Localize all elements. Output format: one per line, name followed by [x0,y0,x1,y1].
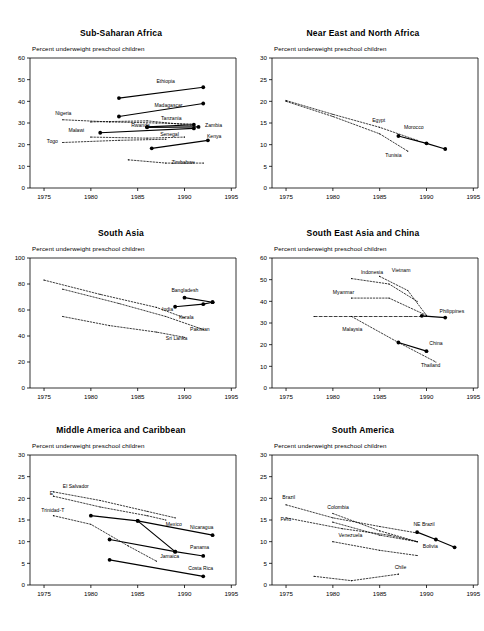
svg-text:15: 15 [260,516,267,523]
svg-text:Venezuela: Venezuela [338,532,362,538]
svg-text:Morocco: Morocco [404,124,424,130]
svg-text:10: 10 [18,163,25,170]
svg-text:30: 30 [260,54,267,61]
panel-title: Near East and North Africa [242,28,484,38]
svg-text:1980: 1980 [84,393,98,400]
plot-area-near-east-north-africa: 05101520253019751980198519901995EgyptMor… [260,54,481,200]
svg-text:15: 15 [18,516,25,523]
svg-text:1990: 1990 [178,193,192,200]
svg-text:Chile: Chile [395,564,407,570]
svg-text:1980: 1980 [326,193,340,200]
svg-text:1980: 1980 [326,393,340,400]
svg-text:Zimbabwe: Zimbabwe [171,159,195,165]
svg-text:E: E [50,490,54,496]
svg-text:5: 5 [264,163,268,170]
svg-text:Costa Rica: Costa Rica [188,565,213,571]
svg-text:1995: 1995 [466,393,480,400]
svg-text:El Salvador: El Salvador [63,483,89,489]
panel-title: Sub-Saharan Africa [0,28,242,38]
svg-text:1975: 1975 [279,393,293,400]
svg-text:Jamaica: Jamaica [160,553,179,559]
panel-middle-america-caribbean: Middle America and Caribbean Percent und… [0,425,242,620]
svg-text:Vietnam: Vietnam [392,267,411,273]
svg-text:Tunisia: Tunisia [385,152,401,158]
svg-text:0: 0 [264,581,268,588]
chart-south-east-asia-china: Percent underweight preschool children 0… [242,238,484,418]
axis-note: Percent underweight preschool children [274,442,387,449]
svg-text:20: 20 [260,98,267,105]
svg-text:China: China [429,340,442,346]
svg-text:20: 20 [260,341,267,348]
svg-text:Sri Lanka: Sri Lanka [166,335,188,341]
svg-text:1995: 1995 [224,590,238,597]
svg-text:NE Brazil: NE Brazil [413,521,434,527]
svg-text:60: 60 [18,54,25,61]
svg-text:60: 60 [18,306,25,313]
axis-note: Percent underweight preschool children [32,45,145,52]
axis-note: Percent underweight preschool children [32,442,145,449]
svg-text:20: 20 [260,495,267,502]
svg-text:10: 10 [260,141,267,148]
svg-text:40: 40 [260,298,267,305]
svg-text:Myanmar: Myanmar [333,289,355,295]
svg-text:1980: 1980 [326,590,340,597]
svg-text:1990: 1990 [178,590,192,597]
svg-text:1990: 1990 [420,590,434,597]
svg-text:30: 30 [18,119,25,126]
svg-text:100: 100 [15,254,26,261]
svg-text:1985: 1985 [373,393,387,400]
svg-text:Nicaragua: Nicaragua [190,524,213,530]
svg-text:Pakistan: Pakistan [190,326,210,332]
svg-text:Rwanda: Rwanda [131,122,150,128]
svg-text:50: 50 [260,276,267,283]
svg-text:30: 30 [260,451,267,458]
svg-text:30: 30 [260,319,267,326]
svg-text:1975: 1975 [37,193,51,200]
svg-text:20: 20 [18,358,25,365]
svg-text:Bangladesh: Bangladesh [171,287,198,293]
svg-text:0: 0 [264,384,268,391]
svg-text:Tanzania: Tanzania [161,115,182,121]
chart-sub-saharan-africa: Percent underweight preschool children 0… [0,38,242,218]
svg-text:Thailand: Thailand [421,362,441,368]
svg-text:1980: 1980 [84,193,98,200]
svg-text:Malaysia: Malaysia [342,326,362,332]
svg-text:1995: 1995 [466,590,480,597]
svg-text:0: 0 [264,184,268,191]
svg-text:Togo: Togo [47,138,58,144]
svg-text:1985: 1985 [373,590,387,597]
svg-text:Madagascar: Madagascar [155,102,183,108]
panel-south-america: South America Percent underweight presch… [242,425,484,620]
svg-text:Indonesia: Indonesia [361,269,383,275]
svg-text:Brazil: Brazil [282,494,295,500]
svg-text:40: 40 [18,332,25,339]
svg-text:Panama: Panama [190,544,209,550]
svg-text:Zambia: Zambia [205,122,222,128]
svg-text:Colombia: Colombia [327,504,349,510]
svg-text:0: 0 [22,581,26,588]
panel-title: South Asia [0,228,242,238]
svg-text:10: 10 [260,538,267,545]
plot-area-south-america: 05101520253019751980198519901995BrazilCo… [260,451,481,597]
svg-text:0: 0 [22,184,26,191]
svg-text:India: India [162,306,173,312]
svg-text:Ethiopia: Ethiopia [156,78,175,84]
svg-text:1975: 1975 [279,590,293,597]
svg-text:Trinidad-T: Trinidad-T [41,507,64,513]
axis-note: Percent underweight preschool children [32,245,145,252]
svg-text:1995: 1995 [224,393,238,400]
panel-title: Middle America and Caribbean [0,425,242,435]
svg-text:1975: 1975 [37,590,51,597]
svg-text:5: 5 [22,560,26,567]
svg-text:20: 20 [18,141,25,148]
svg-text:Nigeria: Nigeria [55,110,71,116]
svg-text:50: 50 [18,76,25,83]
panel-south-east-asia-china: South East Asia and China Percent underw… [242,228,484,418]
svg-text:20: 20 [18,495,25,502]
svg-text:Peru: Peru [280,516,291,522]
panel-sub-saharan-africa: Sub-Saharan Africa Percent underweight p… [0,28,242,218]
svg-text:Egypt: Egypt [372,117,386,123]
svg-text:1995: 1995 [224,193,238,200]
svg-text:25: 25 [260,76,267,83]
svg-text:1995: 1995 [466,193,480,200]
